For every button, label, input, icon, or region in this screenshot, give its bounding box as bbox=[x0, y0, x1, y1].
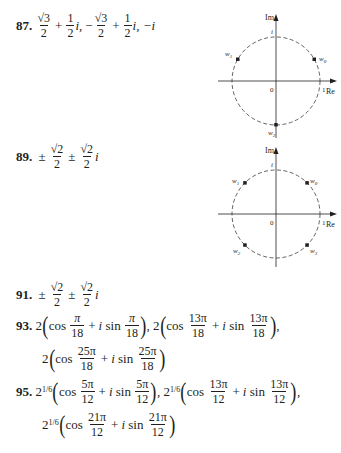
svg-text:w0: w0 bbox=[319, 55, 327, 64]
complex-plane-diagram-89: Im Re 0 1 i w0 w1 w2 w3 bbox=[215, 143, 341, 268]
problem-89: 89. ± √22 ± √22 i bbox=[16, 143, 99, 170]
root-point-w1 bbox=[236, 58, 240, 62]
arrow-icon bbox=[274, 147, 279, 154]
svg-text:w2: w2 bbox=[268, 129, 276, 138]
fraction: 21π12 bbox=[87, 411, 107, 438]
svg-text:Re: Re bbox=[326, 220, 335, 229]
problem-number: 91. bbox=[16, 287, 32, 303]
svg-text:i: i bbox=[271, 28, 273, 36]
svg-text:1: 1 bbox=[322, 86, 326, 94]
fraction: 21π12 bbox=[148, 411, 168, 438]
svg-text:w1: w1 bbox=[225, 50, 232, 59]
root-point-w1 bbox=[243, 181, 247, 185]
problem-95: 95. 21/6( cos 5π12 + i sin 5π12 ), 21/6(… bbox=[16, 378, 300, 405]
svg-text:w3: w3 bbox=[310, 247, 318, 256]
arrow-icon bbox=[330, 212, 337, 217]
svg-text:w1: w1 bbox=[232, 177, 239, 186]
fraction: 5π12 bbox=[81, 378, 95, 405]
root-point-w3 bbox=[305, 243, 309, 247]
problem-93-continued: 2( cos 25π18 + i sin 25π18 ) bbox=[42, 345, 165, 372]
problem-93: 93. 2( cos π18 + i sin π18 ), 2( cos 13π… bbox=[16, 312, 280, 339]
problem-95-continued: 21/6( cos 21π12 + i sin 21π12 ) bbox=[42, 411, 175, 438]
fraction: 13π12 bbox=[269, 378, 289, 405]
problem-number: 95. bbox=[16, 384, 32, 400]
problem-number: 89. bbox=[16, 149, 32, 165]
problem-91: 91. ± √22 ± √22 i bbox=[16, 281, 99, 308]
svg-text:w0: w0 bbox=[310, 177, 318, 186]
problem-number: 93. bbox=[16, 318, 32, 334]
svg-text:Im: Im bbox=[265, 13, 275, 22]
fraction: 25π18 bbox=[137, 345, 157, 372]
svg-text:Re: Re bbox=[326, 87, 335, 96]
svg-text:i: i bbox=[271, 161, 273, 169]
svg-text:Im: Im bbox=[265, 146, 275, 155]
fraction: √22 bbox=[50, 143, 65, 170]
fraction: 13π18 bbox=[188, 312, 208, 339]
svg-text:0: 0 bbox=[270, 219, 274, 227]
fraction: 25π18 bbox=[77, 345, 97, 372]
problem-number: 87. bbox=[16, 18, 32, 34]
fraction: √32 bbox=[94, 12, 109, 39]
arrow-icon bbox=[274, 14, 279, 21]
fraction: √22 bbox=[79, 143, 94, 170]
svg-text:w2: w2 bbox=[233, 247, 241, 256]
fraction: √32 bbox=[37, 12, 52, 39]
fraction: 5π12 bbox=[135, 378, 149, 405]
svg-text:0: 0 bbox=[270, 86, 274, 94]
fraction: 12 bbox=[124, 12, 132, 39]
problem-87: 87. √32 + 12 i, − √32 + 12 i, −i bbox=[16, 12, 155, 39]
complex-plane-diagram-87: Im Re 0 1 i w0 w1 w2 bbox=[215, 10, 341, 140]
svg-text:1: 1 bbox=[322, 219, 326, 227]
root-point-w2 bbox=[274, 123, 278, 127]
arrow-icon bbox=[330, 79, 337, 84]
fraction: √22 bbox=[50, 281, 65, 308]
fraction: 13π12 bbox=[208, 378, 228, 405]
fraction: √22 bbox=[79, 281, 94, 308]
fraction: 12 bbox=[66, 12, 74, 39]
fraction: π18 bbox=[70, 312, 84, 339]
root-point-w2 bbox=[243, 243, 247, 247]
root-point-w0 bbox=[313, 58, 317, 62]
fraction: π18 bbox=[125, 312, 139, 339]
fraction: 13π18 bbox=[249, 312, 269, 339]
root-point-w0 bbox=[305, 181, 309, 185]
